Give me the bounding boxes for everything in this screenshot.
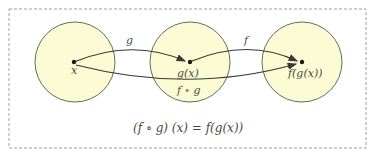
label-x: x [71,64,78,77]
composition-equation: (f ∘ g) (x) = f(g(x)) [133,121,244,135]
arrow-label-composite: f ∘ g [176,84,201,97]
point-gx [188,60,192,64]
arrow-label-f: f [243,34,250,47]
point-fgx [300,60,304,64]
label-fgx: f(g(x)) [287,67,322,80]
label-gx: g(x) [177,67,199,80]
arrow-label-g: g [126,34,133,47]
composition-diagram: x g(x) f(g(x)) g f f ∘ g (f ∘ g) (x) = f… [0,0,376,154]
